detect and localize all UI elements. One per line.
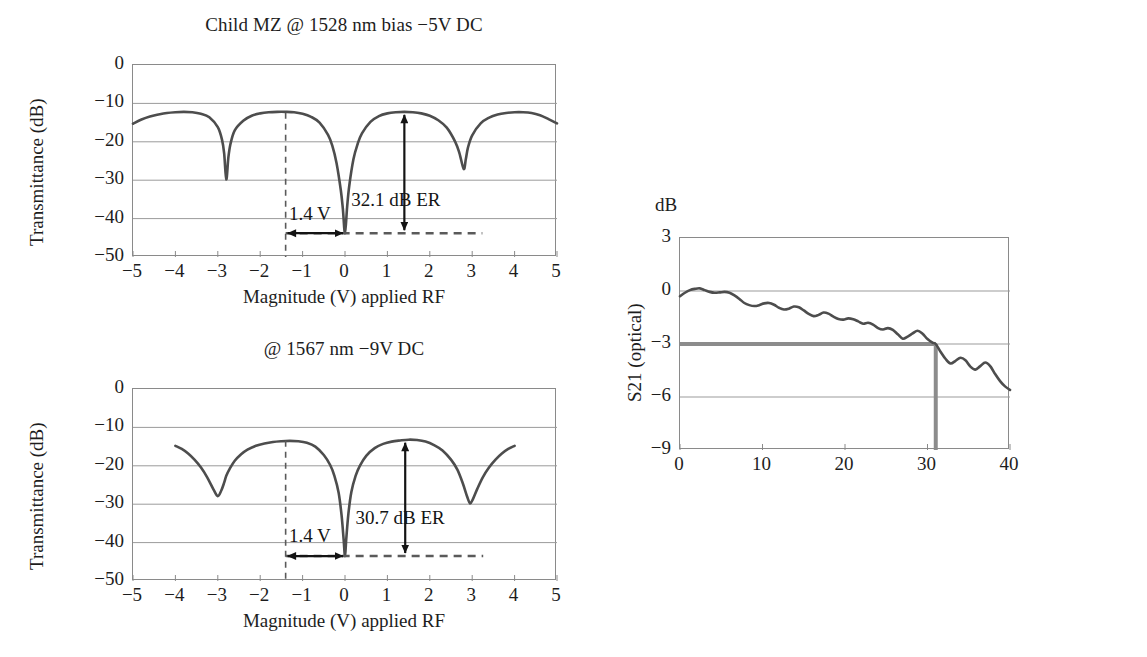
x-tick-label: −5 xyxy=(112,584,152,606)
x-tick-label: −4 xyxy=(154,260,194,282)
x-axis-title-mz-1528: Magnitude (V) applied RF xyxy=(132,286,556,308)
x-tick-label: 3 xyxy=(451,260,491,282)
x-tick-label: 4 xyxy=(494,584,534,606)
x-tick-label: −2 xyxy=(239,584,279,606)
chart-title-mz-1528: Child MZ @ 1528 nm bias −5V DC xyxy=(132,14,556,36)
x-tick-label: 4 xyxy=(494,260,534,282)
plot-svg-mz-1567 xyxy=(133,389,557,581)
y-tick-label: −3 xyxy=(621,331,671,353)
x-tick-label: 10 xyxy=(742,453,782,475)
x-tick-label: 0 xyxy=(659,453,699,475)
plot-svg-s21 xyxy=(680,238,1010,450)
plot-area-mz-1567 xyxy=(132,388,556,580)
plot-svg-mz-1528 xyxy=(133,65,557,257)
x-tick-label: −1 xyxy=(282,260,322,282)
y-tick-label: −20 xyxy=(74,453,124,475)
y-tick-label: 0 xyxy=(621,278,671,300)
y-tick-label: −30 xyxy=(74,167,124,189)
y-tick-label: −40 xyxy=(74,530,124,552)
x-tick-label: −4 xyxy=(154,584,194,606)
y-tick-label: 0 xyxy=(74,52,124,74)
x-tick-label: 0 xyxy=(324,260,364,282)
figure-root: Child MZ @ 1528 nm bias −5V DC Transmitt… xyxy=(0,0,1147,657)
s21-unit-label: dB xyxy=(655,194,677,216)
chart-title-mz-1567: @ 1567 nm −9V DC xyxy=(132,338,556,360)
y-tick-label: −10 xyxy=(74,414,124,436)
er-annotation-label: 30.7 dB ER xyxy=(355,507,444,529)
y-axis-title-mz-1528: Transmittance (dB) xyxy=(26,98,48,246)
x-tick-label: 20 xyxy=(824,453,864,475)
data-curve-mz-1567 xyxy=(175,440,514,556)
y-tick-label: 3 xyxy=(621,225,671,247)
x-tick-label: −2 xyxy=(239,260,279,282)
y-tick-label: −10 xyxy=(74,90,124,112)
vpi-annotation-label: 1.4 V xyxy=(289,525,331,547)
y-tick-label: −20 xyxy=(74,129,124,151)
x-tick-label: 1 xyxy=(366,260,406,282)
x-tick-label: 5 xyxy=(536,260,576,282)
data-curve-s21 xyxy=(680,288,1010,390)
x-tick-label: 1 xyxy=(366,584,406,606)
x-tick-label: −3 xyxy=(197,584,237,606)
plot-area-mz-1528 xyxy=(132,64,556,256)
y-tick-label: 0 xyxy=(74,376,124,398)
chart-panel-s21: dB S21 (optical) Frequency (GHz) 30−3−6−… xyxy=(600,180,1147,510)
x-tick-label: 0 xyxy=(324,584,364,606)
x-tick-label: −5 xyxy=(112,260,152,282)
y-tick-label: −6 xyxy=(621,384,671,406)
x-axis-title-mz-1567: Magnitude (V) applied RF xyxy=(132,610,556,632)
x-tick-label: 5 xyxy=(536,584,576,606)
x-tick-label: −3 xyxy=(197,260,237,282)
x-tick-label: 3 xyxy=(451,584,491,606)
data-curve-mz-1528 xyxy=(133,112,557,233)
vpi-annotation-label: 1.4 V xyxy=(289,203,331,225)
y-tick-label: −30 xyxy=(74,491,124,513)
y-axis-title-mz-1567: Transmittance (dB) xyxy=(26,422,48,570)
x-tick-label: −1 xyxy=(282,584,322,606)
x-tick-label: 2 xyxy=(409,584,449,606)
er-annotation-label: 32.1 dB ER xyxy=(351,189,440,211)
plot-area-s21 xyxy=(679,237,1009,449)
x-tick-label: 40 xyxy=(989,453,1029,475)
chart-panel-mz-1528: Child MZ @ 1528 nm bias −5V DC Transmitt… xyxy=(0,14,600,324)
x-tick-label: 2 xyxy=(409,260,449,282)
x-tick-label: 30 xyxy=(907,453,947,475)
chart-panel-mz-1567: @ 1567 nm −9V DC Transmittance (dB) Magn… xyxy=(0,338,600,650)
y-tick-label: −40 xyxy=(74,206,124,228)
